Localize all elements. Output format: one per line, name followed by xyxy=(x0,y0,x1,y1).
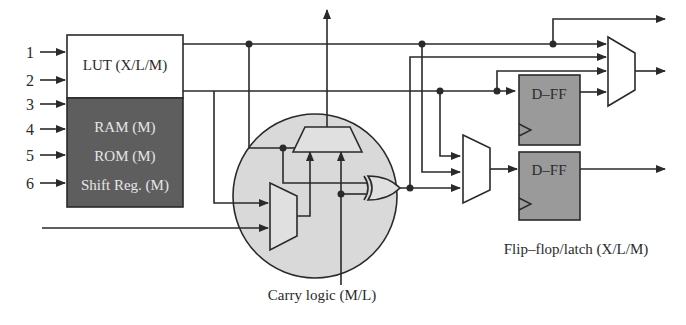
input-label-3: 3 xyxy=(26,96,34,113)
output-mux xyxy=(608,37,635,106)
input-label-1: 1 xyxy=(26,44,34,61)
dff-top-label: D–FF xyxy=(531,86,566,102)
carry-logic-caption: Carry logic (M/L) xyxy=(268,287,376,304)
memory-label-shift-reg: Shift Reg. (M) xyxy=(81,177,169,194)
fpga-logic-cell-diagram: 1 2 3 4 5 6 LUT (X/L/M) RAM (M) ROM (M) … xyxy=(0,0,686,325)
input-label-4: 4 xyxy=(26,121,34,138)
input-arrows xyxy=(40,52,65,183)
memory-label-ram: RAM (M) xyxy=(94,119,155,136)
dff-bottom-label: D–FF xyxy=(531,162,566,178)
input-label-2: 2 xyxy=(26,72,34,89)
memory-label-rom: ROM (M) xyxy=(94,148,155,165)
ff-input-mux xyxy=(463,135,490,203)
flipflop-caption: Flip–flop/latch (X/L/M) xyxy=(504,241,649,258)
input-label-5: 5 xyxy=(26,147,34,164)
lut-label: LUT (X/L/M) xyxy=(83,57,167,74)
carry-mux-top xyxy=(293,127,362,152)
input-label-6: 6 xyxy=(26,175,34,192)
